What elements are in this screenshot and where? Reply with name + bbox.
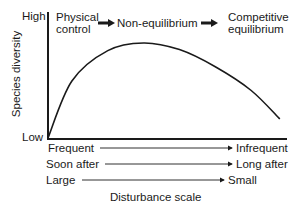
- stage-line: Physical: [56, 11, 99, 23]
- y-low-label: Low: [22, 131, 43, 143]
- scale-small-label: Small: [228, 174, 257, 186]
- stage-line: control: [56, 23, 99, 35]
- y-axis-title: Species diversity: [10, 24, 22, 124]
- y-high-label: High: [22, 10, 46, 22]
- scale-large-label: Large: [46, 174, 75, 186]
- stage-competitive-equilibrium: Competitive equilibrium: [228, 11, 289, 35]
- stage-line: equilibrium: [228, 23, 289, 35]
- scale-soon-after-label: Soon after: [46, 158, 99, 170]
- stage-line: Competitive: [228, 11, 289, 23]
- scale-infrequent-label: Infrequent: [236, 142, 288, 154]
- scale-long-after-label: Long after: [236, 158, 288, 170]
- stage-line: Non-equilibrium: [117, 17, 198, 29]
- scale-frequent-label: Frequent: [48, 142, 94, 154]
- stage-non-equilibrium: Non-equilibrium: [117, 17, 198, 29]
- stage-arrow-2: [201, 19, 218, 27]
- stage-physical-control: Physical control: [56, 11, 99, 35]
- stage-arrow-1: [98, 19, 115, 27]
- diversity-curve: [48, 43, 280, 138]
- x-axis-title: Disturbance scale: [110, 191, 201, 203]
